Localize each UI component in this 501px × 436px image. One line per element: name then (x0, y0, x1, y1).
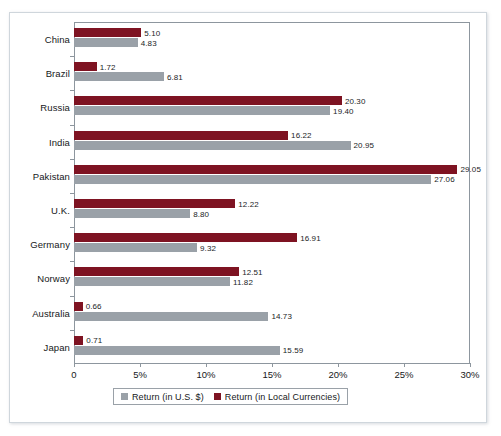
category-label: China (0, 34, 70, 45)
x-axis-tick-label: 15% (262, 369, 281, 380)
bar-value-label: 19.40 (333, 106, 354, 115)
bar-value-label: 5.10 (144, 28, 160, 37)
x-axis-tick (404, 363, 405, 367)
y-axis-tick (70, 56, 74, 57)
legend-label: Return (in Local Currencies) (225, 392, 340, 402)
bar-row-india: India16.2220.95 (74, 125, 470, 159)
category-label: Australia (0, 307, 70, 318)
x-axis-tick-label: 25% (394, 369, 413, 380)
category-label: India (0, 136, 70, 147)
bar-local: 0.71 (74, 336, 83, 345)
bar-value-label: 16.91 (300, 233, 321, 242)
x-axis-tick (272, 363, 273, 367)
y-axis-tick (70, 159, 74, 160)
bar-usd: 9.32 (74, 243, 197, 252)
x-axis: 05%10%15%20%25%30% (74, 364, 470, 388)
bar-row-australia: Australia0.6614.73 (74, 296, 470, 330)
y-axis-tick (70, 227, 74, 228)
bar-usd: 15.59 (74, 346, 280, 355)
x-axis-tick (206, 363, 207, 367)
bar-value-label: 12.22 (238, 199, 259, 208)
bar-value-label: 0.71 (86, 336, 102, 345)
bar-usd: 19.40 (74, 106, 330, 115)
bar-row-norway: Norway12.5111.82 (74, 261, 470, 295)
x-axis-tick-label: 20% (328, 369, 347, 380)
bar-row-russia: Russia20.3019.40 (74, 90, 470, 124)
bar-row-germany: Germany16.919.32 (74, 227, 470, 261)
bar-value-label: 8.80 (193, 209, 209, 218)
x-axis-tick (470, 363, 471, 367)
category-label: Pakistan (0, 170, 70, 181)
category-label: Germany (0, 239, 70, 250)
chart-legend: Return (in U.S. $)Return (in Local Curre… (113, 388, 348, 405)
bar-local: 0.66 (74, 302, 83, 311)
bar-row-u-k: U.K.12.228.80 (74, 193, 470, 227)
y-axis-tick (70, 90, 74, 91)
x-axis-tick-label: 0 (71, 369, 76, 380)
bar-value-label: 11.82 (233, 277, 253, 286)
bar-usd: 4.83 (74, 38, 138, 47)
bar-value-label: 4.83 (141, 38, 157, 47)
x-axis-tick (74, 363, 75, 367)
bar-local: 16.91 (74, 233, 297, 242)
bar-value-label: 14.73 (271, 312, 292, 321)
legend-label: Return (in U.S. $) (132, 392, 204, 402)
bar-local: 20.30 (74, 96, 342, 105)
y-axis-tick (70, 330, 74, 331)
bar-usd: 20.95 (74, 141, 351, 150)
category-label: Brazil (0, 68, 70, 79)
y-axis-tick (70, 193, 74, 194)
y-axis-tick (70, 261, 74, 262)
legend-swatch-icon (121, 393, 128, 400)
legend-swatch-icon (214, 393, 221, 400)
bar-local: 12.22 (74, 199, 235, 208)
bar-usd: 6.81 (74, 72, 164, 81)
category-label: Japan (0, 341, 70, 352)
bar-value-label: 12.51 (242, 267, 263, 276)
bar-value-label: 9.32 (200, 243, 216, 252)
bar-local: 29.05 (74, 165, 457, 174)
bar-usd: 8.80 (74, 209, 190, 218)
bar-row-pakistan: Pakistan29.0527.06 (74, 159, 470, 193)
bar-row-brazil: Brazil1.726.81 (74, 56, 470, 90)
bar-value-label: 27.06 (434, 175, 455, 184)
bar-value-label: 16.22 (291, 131, 312, 140)
category-label: Norway (0, 273, 70, 284)
bar-value-label: 20.95 (354, 141, 375, 150)
bar-value-label: 6.81 (167, 72, 183, 81)
category-label: Russia (0, 102, 70, 113)
bar-usd: 11.82 (74, 277, 230, 286)
bar-value-label: 0.66 (86, 302, 102, 311)
bar-row-japan: Japan0.7115.59 (74, 330, 470, 364)
bar-value-label: 20.30 (345, 96, 366, 105)
bar-value-label: 15.59 (283, 346, 304, 355)
bar-row-china: China5.104.83 (74, 22, 470, 56)
legend-item[interactable]: Return (in U.S. $) (121, 392, 204, 402)
bar-local: 5.10 (74, 28, 141, 37)
bar-value-label: 29.05 (460, 165, 481, 174)
x-axis-tick (140, 363, 141, 367)
x-axis-tick-label: 5% (133, 369, 147, 380)
bar-rows-container: China5.104.83Brazil1.726.81Russia20.3019… (74, 22, 470, 364)
bar-local: 16.22 (74, 131, 288, 140)
x-axis-tick-label: 10% (196, 369, 215, 380)
y-axis-tick (70, 296, 74, 297)
legend-item[interactable]: Return (in Local Currencies) (214, 392, 340, 402)
bar-usd: 14.73 (74, 312, 268, 321)
bar-local: 12.51 (74, 267, 239, 276)
bar-usd: 27.06 (74, 175, 431, 184)
bar-value-label: 1.72 (100, 62, 116, 71)
chart-figure: China5.104.83Brazil1.726.81Russia20.3019… (0, 0, 501, 436)
y-axis-tick (70, 125, 74, 126)
x-axis-tick (338, 363, 339, 367)
bar-local: 1.72 (74, 62, 97, 71)
category-label: U.K. (0, 205, 70, 216)
x-axis-tick-label: 30% (460, 369, 479, 380)
